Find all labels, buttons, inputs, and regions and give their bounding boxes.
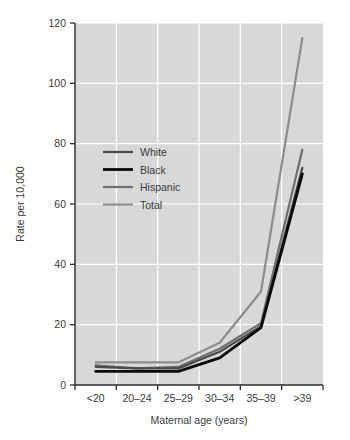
x-axis-tick-label: >39 [293, 392, 311, 404]
y-axis-tick-label: 20 [54, 318, 66, 330]
legend-label-total: Total [140, 199, 162, 211]
chart-figure: 020406080100120 <2020–2425–2930–3435–39>… [0, 0, 350, 440]
y-axis-tick-label: 40 [54, 258, 66, 270]
y-axis-tick-label: 0 [60, 379, 66, 391]
legend-label-white: White [140, 146, 167, 158]
x-axis-tick-label: <20 [87, 392, 105, 404]
y-axis-tick-label: 120 [48, 17, 66, 29]
x-axis-title: Maternal age (years) [151, 414, 248, 426]
y-axis-tick-label: 80 [54, 137, 66, 149]
y-axis-tick-label: 60 [54, 198, 66, 210]
y-axis-title: Rate per 10,000 [14, 166, 26, 241]
x-axis-tick-label: 20–24 [122, 392, 151, 404]
y-axis-tick-label: 100 [48, 77, 66, 89]
legend-label-hispanic: Hispanic [140, 181, 180, 193]
x-axis-tick-label: 30–34 [205, 392, 234, 404]
line-chart: 020406080100120 <2020–2425–2930–3435–39>… [0, 0, 350, 440]
x-axis-tick-label: 25–29 [164, 392, 193, 404]
legend-label-black: Black [140, 164, 166, 176]
x-axis-tick-label: 35–39 [246, 392, 275, 404]
